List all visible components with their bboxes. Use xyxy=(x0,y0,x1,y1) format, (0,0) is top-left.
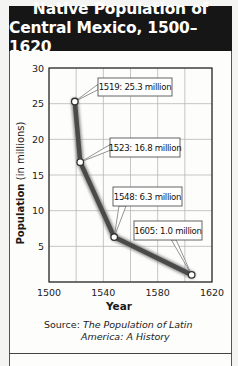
x-tick-label: 1620 xyxy=(200,287,224,298)
y-tick-label: 25 xyxy=(32,98,44,109)
x-axis-label: Year xyxy=(0,300,238,312)
y-axis-ticks: 51015202530 xyxy=(32,63,44,252)
x-tick-label: 1540 xyxy=(91,287,115,298)
data-point-marker xyxy=(111,234,118,241)
source-title-line-1: The Population of Latin xyxy=(83,319,193,330)
annotation-text: 1548: 6.3 million xyxy=(114,192,181,202)
data-labels: 1519: 25.3 million1523: 16.8 million1548… xyxy=(98,78,202,240)
x-tick-label: 1500 xyxy=(37,287,61,298)
data-point-marker xyxy=(77,159,84,166)
annotation-pointer xyxy=(75,84,98,101)
y-tick-label: 15 xyxy=(32,170,44,181)
y-tick-label: 10 xyxy=(32,205,44,216)
x-axis-ticks: 1500154015801620 xyxy=(37,287,224,298)
source-note: Source: The Population of Latin America:… xyxy=(44,319,193,343)
y-tick-label: 20 xyxy=(32,134,44,145)
annotation-text: 1523: 16.8 million xyxy=(109,143,182,153)
data-point-marker xyxy=(72,98,79,105)
y-tick-label: 5 xyxy=(38,241,44,252)
x-tick-label: 1580 xyxy=(146,287,170,298)
source-title-line-2: America: A History xyxy=(44,331,193,343)
annotation-text: 1605: 1.0 million xyxy=(134,226,201,236)
data-point-marker xyxy=(188,272,195,279)
bottom-divider xyxy=(9,353,232,354)
y-axis-label: Population (in millions) xyxy=(15,121,26,244)
y-tick-label: 30 xyxy=(32,63,44,74)
annotation-text: 1519: 25.3 million xyxy=(99,82,172,92)
source-prefix: Source: xyxy=(44,319,80,330)
annotation-pointer xyxy=(80,145,110,163)
